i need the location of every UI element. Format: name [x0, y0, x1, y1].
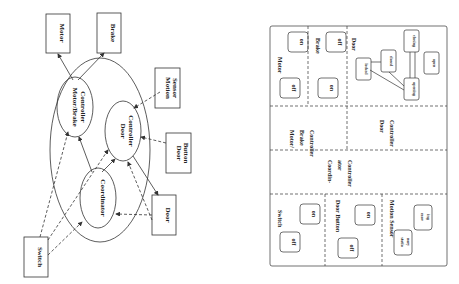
svg-text:nary: nary	[406, 238, 411, 246]
svg-text:Controller: Controller	[389, 120, 395, 147]
svg-text:on: on	[366, 212, 372, 219]
svg-text:Door: Door	[351, 38, 357, 51]
svg-text:off: off	[291, 239, 297, 247]
svg-text:Door: Door	[164, 207, 172, 222]
svg-text:Controller: Controller	[347, 160, 353, 187]
svg-text:Sensor: Sensor	[171, 78, 179, 98]
svg-text:off: off	[337, 39, 343, 47]
svg-text:Switch: Switch	[277, 210, 283, 228]
svg-text:Coordinator: Coordinator	[99, 179, 107, 216]
svg-text:ing: ing	[426, 214, 431, 219]
svg-text:on: on	[329, 85, 335, 92]
svg-text:Motor/Brake: Motor/Brake	[71, 87, 79, 126]
svg-text:Controller: Controller	[79, 91, 87, 122]
svg-text:off: off	[349, 245, 355, 253]
svg-text:locked: locked	[364, 63, 369, 75]
svg-text:Controller: Controller	[127, 115, 135, 146]
svg-text:Motor/: Motor/	[289, 130, 295, 148]
svg-text:Door Button: Door Button	[335, 200, 341, 233]
svg-text:open: open	[432, 59, 437, 68]
svg-text:Door: Door	[379, 120, 385, 133]
coordinator-ellipse	[80, 168, 116, 228]
svg-text:Door: Door	[119, 123, 127, 138]
svg-text:ator: ator	[337, 160, 343, 171]
svg-text:Door: Door	[175, 145, 183, 160]
svg-text:statio: statio	[400, 237, 405, 246]
svg-text:opening: opening	[412, 82, 417, 96]
svg-text:Coordin-: Coordin-	[327, 160, 333, 183]
svg-text:Motion Sensor: Motion Sensor	[389, 200, 395, 238]
svg-text:on: on	[311, 211, 317, 218]
svg-text:mov: mov	[420, 213, 425, 220]
svg-text:closing: closing	[412, 35, 417, 47]
svg-text:on: on	[299, 39, 305, 46]
svg-text:Brake: Brake	[299, 130, 305, 146]
svg-text:Button: Button	[182, 143, 190, 164]
svg-text:Motor: Motor	[58, 23, 66, 42]
svg-text:Motion: Motion	[164, 77, 172, 99]
svg-text:Switch: Switch	[36, 247, 44, 267]
svg-text:Brake: Brake	[109, 24, 117, 42]
svg-text:Brake: Brake	[315, 38, 321, 54]
svg-text:Motor: Motor	[277, 57, 283, 74]
diagram: Motor Brake Motion Sensor Door Button Do…	[0, 0, 459, 284]
svg-text:off: off	[291, 85, 297, 93]
svg-text:closed: closed	[389, 56, 394, 67]
svg-text:Controller: Controller	[309, 130, 315, 157]
